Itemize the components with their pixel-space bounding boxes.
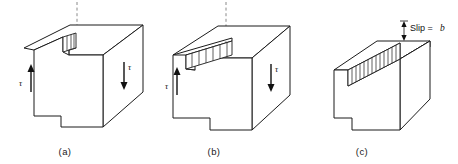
panel-caption-b: (b) xyxy=(208,146,221,157)
panel-caption-c: (c) xyxy=(356,146,368,157)
slip-dislocation-figure: τ τ (a) xyxy=(0,0,458,164)
panel-caption-a: (a) xyxy=(59,146,72,157)
slip-annotation-text: Slip = xyxy=(410,23,433,33)
slip-annotation-symbol: b xyxy=(440,23,445,33)
figure-container: τ τ (a) xyxy=(0,0,458,164)
